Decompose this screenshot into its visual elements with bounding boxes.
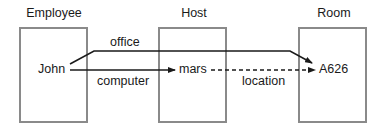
edge-label-office: office xyxy=(110,35,140,49)
entity-relationship-diagram: Employee Host Room John mars A626 office… xyxy=(0,0,384,130)
node-a626: A626 xyxy=(319,62,348,76)
edge-label-computer: computer xyxy=(97,74,149,88)
node-john: John xyxy=(38,62,65,76)
edge-label-location: location xyxy=(242,74,285,88)
node-mars: mars xyxy=(179,62,207,76)
